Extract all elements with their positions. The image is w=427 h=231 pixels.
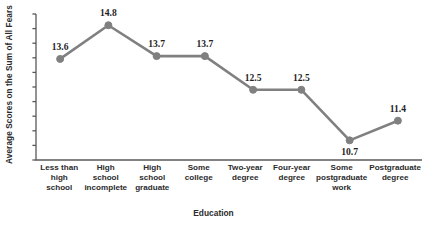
data-point-marker <box>394 117 401 124</box>
x-axis-tick-label-line: school <box>84 173 129 183</box>
y-axis-title: Average Scores on the Sum of All Fears <box>0 0 18 168</box>
data-point-label: 13.6 <box>52 41 69 52</box>
x-axis-tick-label-line: Two-year <box>223 163 268 173</box>
x-axis-title-text: Education <box>193 208 233 218</box>
line-chart: Average Scores on the Sum of All Fears 1… <box>0 0 427 231</box>
x-axis-tick-label-line: High <box>130 163 175 173</box>
x-axis-tick-label-line: postgraduate <box>316 173 367 183</box>
data-point-marker <box>201 53 208 60</box>
x-axis-tick-label-line: college <box>177 173 222 183</box>
x-axis-tick-label: Less thanhigh school <box>36 163 83 203</box>
x-axis-tick-label: Two-yeardegree <box>222 163 269 203</box>
data-point-label: 14.8 <box>100 7 117 18</box>
data-point-marker <box>298 86 305 93</box>
plot-area: 13.614.813.713.712.512.510.711.4 <box>36 14 422 160</box>
x-axis-tick-label-line: graduate <box>130 183 175 193</box>
x-axis-tick-label-line: high school <box>37 173 82 193</box>
y-axis-title-text: Average Scores on the Sum of All Fears <box>5 5 14 164</box>
data-point-marker <box>57 55 64 62</box>
x-axis-tick-label-line: incomplete <box>84 183 129 193</box>
data-point-marker <box>153 53 160 60</box>
x-axis-tick-label-line: High <box>84 163 129 173</box>
x-axis-tick-label: Four-yeardegree <box>269 163 316 203</box>
x-axis-tick-label-line: Four-year <box>270 163 315 173</box>
data-point-label: 12.5 <box>245 72 262 83</box>
x-axis-tick-label: Highschoolgraduate <box>129 163 176 203</box>
plot-svg: 13.614.813.713.712.512.510.711.4 <box>36 14 422 160</box>
data-point-label: 13.7 <box>148 38 165 49</box>
x-axis-tick-label-line: degree <box>270 173 315 183</box>
x-axis-title: Education <box>0 208 427 218</box>
data-point-marker <box>105 22 112 29</box>
x-axis-tick-label: Postgraduatedegree <box>368 163 422 203</box>
data-point-labels: 13.614.813.713.712.512.510.711.4 <box>52 7 406 157</box>
data-point-label: 13.7 <box>196 38 213 49</box>
x-axis-tick-label: Somepostgraduatework <box>315 163 368 203</box>
x-axis-tick-label-line: Some <box>177 163 222 173</box>
data-point-marker <box>250 86 257 93</box>
data-point-markers <box>57 22 402 144</box>
x-axis-tick-label-line: Postgraduate <box>369 163 421 173</box>
data-point-marker <box>346 137 353 144</box>
data-series-line <box>60 25 398 140</box>
x-axis-tick-label-line: Less than <box>37 163 82 173</box>
data-point-label: 12.5 <box>293 72 310 83</box>
x-axis-tick-label-line: work <box>316 183 367 193</box>
data-point-label: 10.7 <box>341 146 358 157</box>
x-axis-tick-label: Somecollege <box>176 163 223 203</box>
x-axis-tick-label-line: Some <box>316 163 367 173</box>
x-axis-tick-label-line: school <box>130 173 175 183</box>
x-axis-tick-labels: Less thanhigh schoolHighschoolincomplete… <box>36 163 422 203</box>
data-point-label: 11.4 <box>390 103 406 114</box>
x-axis-tick-label: Highschoolincomplete <box>83 163 130 203</box>
x-axis-tick-label-line: degree <box>223 173 268 183</box>
x-axis-tick-label-line: degree <box>369 173 421 183</box>
